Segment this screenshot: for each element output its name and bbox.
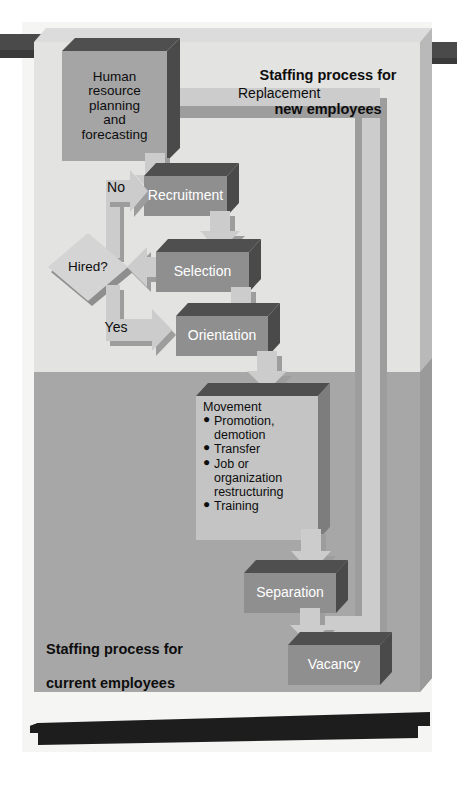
node-vacancy [288, 632, 392, 685]
movement-item-sub: demotion [214, 428, 315, 442]
movement-title: Movement [203, 400, 315, 414]
movement-item-text: Training [214, 499, 259, 513]
bullet-icon: ● [203, 413, 210, 427]
movement-item-sub: organization restructuring [214, 471, 315, 499]
flowchart-figure: Staffing process for new employees Staff… [0, 0, 457, 795]
node-selection [156, 239, 261, 292]
list-item: ● Training [203, 499, 315, 513]
list-item: ● Transfer [203, 442, 315, 456]
movement-item-text: Job or [214, 457, 249, 471]
bullet-icon: ● [203, 441, 210, 455]
bullet-icon: ● [203, 456, 210, 470]
list-item: ● Promotion, demotion [203, 414, 315, 442]
node-recruitment [144, 163, 239, 216]
movement-item-text: Transfer [214, 442, 260, 456]
node-orientation [176, 303, 280, 356]
panel-side-bevel-lower [420, 358, 432, 692]
movement-item-text: Promotion, [214, 414, 274, 428]
flowchart-canvas [0, 0, 457, 795]
bullet-icon: ● [203, 498, 210, 512]
list-item: ● Job or organization restructuring [203, 457, 315, 499]
node-label-movement: Movement ● Promotion, demotion ● Transfe… [203, 400, 315, 513]
node-hr-planning [62, 38, 180, 161]
movement-item-list: ● Promotion, demotion ● Transfer ● Job o… [203, 414, 315, 513]
node-separation [244, 560, 348, 613]
